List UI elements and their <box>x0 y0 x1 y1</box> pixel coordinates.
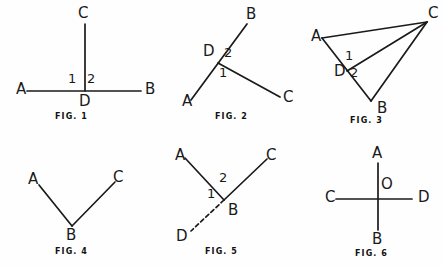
fig-2-point-label-a: A <box>182 94 192 109</box>
fig-2-caption: FIG. 2 <box>215 113 248 121</box>
fig-5-point-label-c: C <box>266 148 276 163</box>
fig-5-angle-1: 1 <box>207 187 215 200</box>
fig-2-angle-2: 2 <box>224 46 232 59</box>
fig-3-angle-1: 1 <box>345 49 353 62</box>
fig-1-point-label-a: A <box>16 82 26 97</box>
fig-5-point-label-d: D <box>176 229 188 244</box>
fig-3-point-label-c: C <box>428 6 438 21</box>
fig-6-point-label-o: O <box>381 177 393 192</box>
fig-1-point-label-d: D <box>79 94 91 109</box>
fig-1-point-label-c: C <box>78 6 88 21</box>
fig-1-point-label-b: B <box>145 82 155 97</box>
fig-3-point-label-d: D <box>334 64 346 79</box>
fig-1-caption: FIG. 1 <box>55 113 88 121</box>
fig-3-caption: FIG. 3 <box>350 117 383 125</box>
fig-6-point-label-b: B <box>372 232 382 247</box>
fig-3-point-label-a: A <box>311 29 321 44</box>
figure-labels-layer: ABCD12FIG. 1ABCD12FIG. 2ABCD12FIG. 3ABCF… <box>0 0 443 267</box>
fig-1-angle-1: 1 <box>68 72 76 85</box>
fig-6-point-label-c: C <box>325 190 335 205</box>
fig-5-angle-2: 2 <box>219 171 227 184</box>
fig-4-point-label-a: A <box>28 172 38 187</box>
fig-3-angle-2: 2 <box>350 66 358 79</box>
fig-2-angle-1: 1 <box>219 66 227 79</box>
fig-4-point-label-b: B <box>66 228 76 243</box>
fig-3-point-label-b: B <box>377 101 387 116</box>
fig-4-point-label-c: C <box>113 170 123 185</box>
fig-4-caption: FIG. 4 <box>55 248 88 256</box>
fig-5-caption: FIG. 5 <box>205 248 238 256</box>
geometry-figures-page: ABCD12FIG. 1ABCD12FIG. 2ABCD12FIG. 3ABCF… <box>0 0 443 267</box>
fig-6-point-label-d: D <box>418 190 430 205</box>
fig-6-caption: FIG. 6 <box>355 250 388 258</box>
fig-2-point-label-d: D <box>203 44 215 59</box>
fig-5-point-label-b: B <box>228 203 238 218</box>
fig-6-point-label-a: A <box>372 146 382 161</box>
fig-1-angle-2: 2 <box>87 72 95 85</box>
fig-2-point-label-b: B <box>246 7 256 22</box>
fig-5-point-label-a: A <box>175 148 185 163</box>
fig-2-point-label-c: C <box>283 90 293 105</box>
